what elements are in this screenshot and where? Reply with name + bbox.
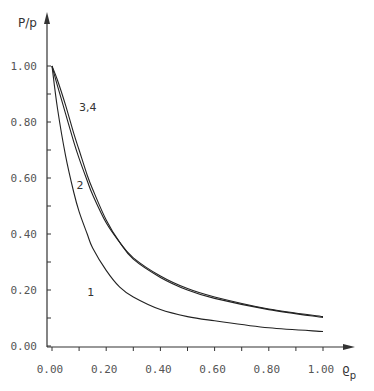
x-tick-label: 0.60 xyxy=(199,363,226,376)
axes: 0.000.200.400.600.801.000.000.200.400.60… xyxy=(11,12,356,381)
y-tick-label: 0.00 xyxy=(11,340,38,353)
x-tick-label: 1.00 xyxy=(308,363,335,376)
y-tick-label: 1.00 xyxy=(11,60,38,73)
curve-label-2: 2 xyxy=(76,179,83,192)
x-axis-arrow-icon xyxy=(343,344,355,350)
y-tick-label: 0.40 xyxy=(11,228,38,241)
y-tick-label: 0.60 xyxy=(11,172,38,185)
x-axis-title-subscript: p xyxy=(350,370,356,381)
y-tick-label: 0.80 xyxy=(11,116,38,129)
x-tick-label: 0.80 xyxy=(254,363,281,376)
labels: 123,4 xyxy=(76,101,96,299)
y-tick-label: 0.20 xyxy=(11,284,38,297)
x-tick-label: 0.00 xyxy=(37,363,64,376)
y-axis-title: P/p xyxy=(18,16,37,30)
x-tick-label: 0.40 xyxy=(145,363,172,376)
x-axis-title: ϱp xyxy=(342,362,356,381)
y-axis-arrow-icon xyxy=(44,12,50,24)
curve-label-3-4: 3,4 xyxy=(79,101,97,114)
chart: 0.000.200.400.600.801.000.000.200.400.60… xyxy=(0,0,374,391)
curve-label-1: 1 xyxy=(87,286,94,299)
x-tick-label: 0.20 xyxy=(91,363,118,376)
